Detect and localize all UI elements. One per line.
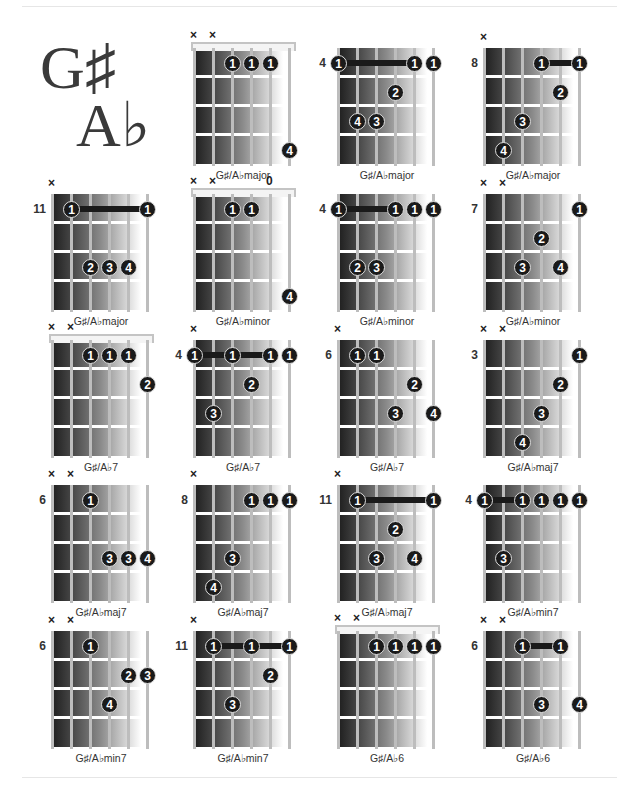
finger-dot: 3 [495, 550, 512, 567]
finger-dot: 4 [571, 696, 588, 713]
muted-string-icon: × [209, 174, 216, 188]
chord-diagram: ×811234G♯/A♭major [484, 34, 614, 174]
fret-position-number: 6 [30, 493, 46, 507]
finger-dot: 1 [533, 492, 550, 509]
fret-line [338, 687, 435, 690]
finger-dot: 1 [281, 638, 298, 655]
string-line [212, 48, 215, 166]
muted-string-icon: × [190, 28, 197, 42]
finger-dot: 2 [349, 259, 366, 276]
fret-line [194, 425, 291, 428]
muted-string-icon: × [67, 320, 74, 334]
fret-position-number: 7 [462, 202, 478, 216]
muted-string-icon: × [480, 613, 487, 627]
fret-line [338, 541, 435, 544]
fret-line [484, 456, 581, 458]
string-line [502, 631, 505, 749]
finger-dot: 1 [552, 492, 569, 509]
fret-line [52, 425, 149, 428]
muted-string-icon: × [334, 611, 341, 625]
string-line [559, 48, 562, 166]
finger-dot: 2 [243, 376, 260, 393]
finger-dot: 3 [533, 405, 550, 422]
string-line [337, 340, 340, 458]
finger-dot: 3 [368, 113, 385, 130]
fret-position-number: 11 [30, 202, 46, 216]
string-line [521, 194, 524, 312]
nut [49, 334, 154, 343]
string-line [193, 194, 196, 312]
finger-dot: 2 [262, 667, 279, 684]
muted-string-icon: × [190, 467, 197, 481]
top-divider [22, 6, 617, 7]
fret-line [484, 367, 581, 370]
string-line [70, 340, 73, 458]
fret-line [484, 425, 581, 428]
fret-line [338, 367, 435, 370]
string-line [89, 194, 92, 312]
string-line [559, 194, 562, 312]
finger-dot: 1 [571, 55, 588, 72]
muted-string-icon: × [353, 611, 360, 625]
string-line [70, 485, 73, 603]
chord-diagram: ××1112G♯/A♭7 [52, 326, 182, 466]
string-line [146, 485, 149, 603]
muted-string-icon: × [209, 28, 216, 42]
fret-line [194, 221, 291, 224]
muted-string-icon: × [334, 322, 341, 336]
finger-dot: 1 [139, 201, 156, 218]
fretboard [484, 340, 581, 458]
finger-dot: 1 [186, 347, 203, 364]
finger-dot: 2 [552, 84, 569, 101]
finger-dot: 1 [224, 55, 241, 72]
string-line [337, 485, 340, 603]
finger-dot: 1 [514, 638, 531, 655]
fret-line [484, 570, 581, 573]
muted-string-icon: × [480, 322, 487, 336]
muted-string-icon: × [480, 176, 487, 190]
finger-dot: 1 [425, 638, 442, 655]
string-line [127, 485, 130, 603]
finger-dot: 1 [262, 347, 279, 364]
fret-position-number: 11 [316, 493, 332, 507]
finger-dot: 1 [281, 492, 298, 509]
fret-line [194, 747, 291, 749]
string-line [540, 631, 543, 749]
chord-diagram: ××61134G♯/A♭6 [484, 617, 614, 757]
chord-diagram: ×4111123G♯/A♭7 [194, 326, 324, 466]
fret-line [484, 541, 581, 544]
fret-position-number: 4 [456, 493, 472, 507]
finger-dot: 4 [101, 696, 118, 713]
fret-line [194, 570, 291, 573]
finger-dot: 1 [406, 638, 423, 655]
fret-position-number: 4 [310, 56, 326, 70]
string-line [146, 340, 149, 458]
muted-string-icon: × [334, 467, 341, 481]
muted-string-icon: × [190, 322, 197, 336]
barre-line [71, 206, 147, 212]
finger-dot: 3 [120, 550, 137, 567]
chord-diagram: ××71234G♯/A♭minor [484, 180, 614, 320]
chord-title: G♯ A♭ [40, 36, 160, 166]
finger-dot: 1 [476, 492, 493, 509]
finger-dot: 3 [101, 259, 118, 276]
finger-dot: 1 [82, 638, 99, 655]
string-line [559, 340, 562, 458]
fret-line [484, 279, 581, 282]
fret-position-number: 11 [172, 639, 188, 653]
string-line [231, 485, 234, 603]
fret-line [484, 687, 581, 690]
chord-diagram: ××61234G♯/A♭min7 [52, 617, 182, 757]
fretboard [484, 194, 581, 312]
fret-line [338, 133, 435, 136]
string-line [127, 194, 130, 312]
finger-dot: 1 [330, 201, 347, 218]
fret-line [194, 133, 291, 136]
muted-string-icon: × [480, 30, 487, 44]
finger-dot: 4 [120, 259, 137, 276]
finger-dot: 2 [387, 521, 404, 538]
fret-position-number: 8 [462, 56, 478, 70]
bottom-divider [22, 777, 617, 778]
muted-string-icon: × [48, 176, 55, 190]
finger-dot: 1 [330, 55, 347, 72]
